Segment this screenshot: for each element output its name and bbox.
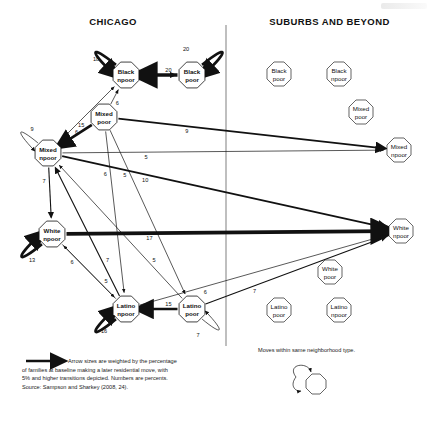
legend-selfloop-sample [293,365,326,394]
edge-chi-mixed-npoor-to-sub-white-npoor [62,156,386,228]
node-label-line1: Latino [271,303,288,310]
legend-line-1: Arrow sizes are weighted by the percenta… [68,357,237,366]
node-label-line2: poor [273,311,285,318]
edge-weight-label: 5 [123,172,126,178]
node-sub-black-poor: Blackpoor [267,62,291,86]
node-label-line2: poor [97,118,111,125]
self-loop-weight-label: 13 [29,257,35,263]
self-loop-weight-label: 7 [196,332,199,338]
node-label-line1: Mixed [353,105,370,112]
node-chi-latino-poor: Latinopoor [179,296,205,322]
node-chi-black-poor: Blackpoor [179,62,205,88]
figure-canvas: CHICAGO SUBURBS AND BEYOND BlacknpoorBla… [0,0,433,424]
self-loop-weight-label: 18 [93,56,99,62]
edge-weight-label: 10 [142,177,148,183]
node-sub-latino-npoor: Latinonpoor [327,298,351,322]
node-label-line1: Black [271,67,287,74]
edge-weight-label: 6 [75,129,78,135]
node-label-line1: Latino [117,302,136,309]
edge-chi-mixed-poor-to-sub-mixed-npoor [118,119,383,149]
node-sub-black-npoor: Blacknpoor [327,62,351,86]
node-sub-latino-poor: Latinopoor [267,298,291,322]
legend-note: Arrow sizes are weighted by the percenta… [22,357,237,391]
edge-chi-latino-poor-to-sub-white-npoor [206,236,387,304]
node-label-line1: White [44,227,61,234]
self-loop-weight-label: 16 [101,328,107,334]
edge-chi-mixed-npoor-to-sub-mixed-npoor [63,150,384,153]
edge-weight-label: 15 [78,122,84,128]
node-chi-white-npoor: Whitenpoor [39,221,65,247]
edge-chi-white-npoor-to-sub-white-npoor [67,231,386,234]
node-label-line1: Latino [183,302,202,309]
node-label-line2: npoor [331,75,347,82]
self-loop-weight-label: 9 [30,126,33,132]
node-label-line2: npoor [43,235,61,242]
node-chi-mixed-poor: Mixedpoor [91,104,117,130]
edge-weight-label: 7 [106,257,109,263]
edge-weight-label: 6 [104,171,107,177]
node-sub-white-npoor: Whitenpoor [389,219,413,243]
edge-weight-label: 6 [70,259,73,265]
edge-weight-label: 5 [104,278,107,284]
node-label-line1: Mixed [39,146,57,153]
edge-weight-label: 9 [185,128,188,134]
node-sub-mixed-npoor: Mixednpoor [387,138,411,162]
edge-weight-label: 7 [148,77,151,83]
edge-weight-label: 5 [144,154,147,160]
node-sub-mixed-poor: Mixedpoor [349,100,373,124]
node-label-line2: npoor [39,154,57,161]
node-label-line1: Black [331,67,347,74]
legend-line-3: 5% and higher transitions depicted. Numb… [22,375,168,381]
node-label-line1: White [322,265,338,272]
node-label-line1: Mixed [391,143,408,150]
node-label-line1: White [393,224,409,231]
legend-line-2: of families at baseline making a later r… [22,367,168,373]
node-chi-latino-npoor: Latinonpoor [113,296,139,322]
legend-source: Source: Sampson and Sharkey (2008, 24). [22,384,128,390]
node-label-line2: npoor [117,310,135,317]
node-label-line2: npoor [331,311,347,318]
node-label-line2: poor [185,310,199,317]
node-label-line1: Black [184,68,201,75]
edge-chi-mixed-npoor-to-chi-white-npoor [49,167,51,217]
edge-weight-label: 17 [146,235,152,241]
node-label-line2: npoor [117,76,135,83]
node-label-line2: poor [355,113,367,120]
node-sub-white-poor: Whitepoor [318,260,342,284]
node-label-line2: poor [273,75,285,82]
legend-selfloop-text: Moves within same neighborhood type. [258,347,355,353]
node-label-line2: npoor [391,151,407,158]
edge-weight-label: 20 [165,67,171,73]
node-label-line2: poor [324,273,336,280]
edge-weight-label: 15 [165,301,171,307]
edge-weight-label: 5 [152,257,155,263]
self-loop-weight-label: 20 [183,46,189,52]
edge-weight-label: 7 [43,178,46,184]
node-label-line2: npoor [393,232,409,239]
edge-weight-label: 6 [116,100,119,106]
edge-weight-label: 6 [204,289,207,295]
node-chi-mixed-npoor: Mixednpoor [35,140,61,166]
node-label-line1: Black [118,68,135,75]
node-label-line1: Latino [331,303,348,310]
edge-chi-latino-npoor-to-sub-white-npoor [140,235,386,305]
node-label-line2: poor [185,76,199,83]
legend-selfloop-note: Moves within same neighborhood type. [258,346,398,355]
node-label-line1: Mixed [95,110,113,117]
node-chi-black-npoor: Blacknpoor [113,62,139,88]
edge-weight-label: 7 [253,288,256,294]
